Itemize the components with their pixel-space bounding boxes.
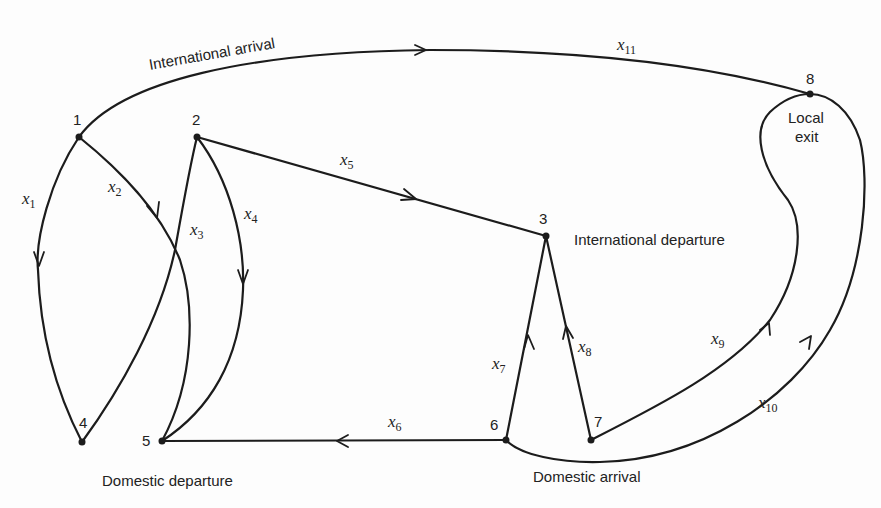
- node-label-8: 8: [806, 70, 814, 87]
- node-1: [76, 134, 83, 141]
- label-local-exit-line1: Local: [788, 109, 824, 126]
- edge-label-x3: x3: [189, 220, 204, 242]
- label-international-arrival: International arrival: [148, 34, 277, 73]
- node-6: [503, 437, 510, 444]
- node-8: [807, 91, 814, 98]
- node-2: [194, 134, 201, 141]
- edge-label-x1: x1: [21, 189, 36, 211]
- edge-x7: [506, 236, 546, 440]
- edge-label-x4: x4: [243, 204, 258, 226]
- edge-x9: [591, 94, 810, 440]
- edge-label-x5: x5: [339, 150, 354, 172]
- edge-x2: [79, 137, 190, 441]
- node-5: [159, 438, 166, 445]
- edge-label-x7: x7: [491, 354, 506, 376]
- node-label-6: 6: [490, 416, 498, 433]
- label-international-departure: International departure: [574, 231, 725, 248]
- label-local-exit-line2: exit: [795, 128, 819, 145]
- node-label-3: 3: [539, 210, 547, 227]
- edge-label-x11: x11: [616, 35, 636, 57]
- edge-label-x9: x9: [710, 329, 725, 351]
- edge-label-x8: x8: [577, 337, 592, 359]
- network-diagram: 1 2 3 4 5 6 7 8 x1 x2 x3 x4 x5 x6 x7 x8 …: [0, 0, 881, 508]
- node-7: [588, 437, 595, 444]
- node-label-5: 5: [142, 432, 150, 449]
- edge-x1: [38, 137, 82, 442]
- node-label-1: 1: [73, 111, 81, 128]
- node-label-2: 2: [192, 111, 200, 128]
- node-3: [543, 233, 550, 240]
- node-label-4: 4: [79, 414, 87, 431]
- arrow-x1-icon: [34, 252, 44, 266]
- label-domestic-departure: Domestic departure: [102, 472, 233, 489]
- edge-x6: [162, 440, 506, 441]
- label-domestic-arrival: Domestic arrival: [533, 468, 641, 485]
- node-4: [79, 439, 86, 446]
- arrow-x10-icon: [800, 336, 811, 349]
- edge-x10: [506, 94, 865, 462]
- node-label-7: 7: [594, 413, 602, 430]
- edge-label-x2: x2: [107, 177, 122, 199]
- edge-x4: [162, 137, 243, 441]
- edge-label-x6: x6: [387, 412, 402, 434]
- diagram-canvas: 1 2 3 4 5 6 7 8 x1 x2 x3 x4 x5 x6 x7 x8 …: [0, 0, 881, 508]
